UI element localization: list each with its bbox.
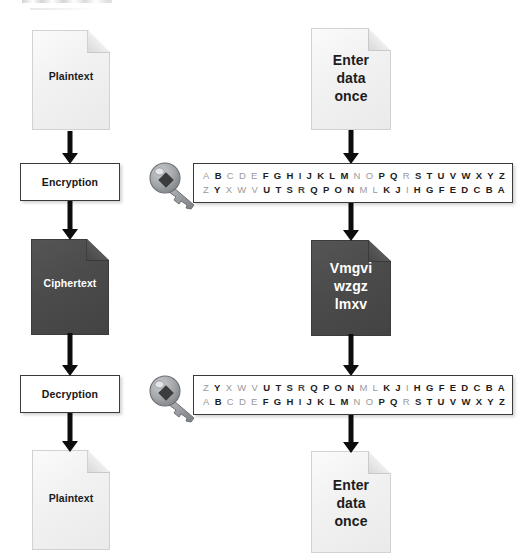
alphabet-letter: X (226, 382, 232, 394)
alphabet-letter: R (403, 396, 410, 408)
arrow-ciphertext-to-decryption (61, 333, 79, 376)
arrow-input-to-encryption-key (342, 130, 360, 164)
alphabet-letter: M (359, 382, 367, 394)
alphabet-letter: O (335, 382, 342, 394)
alphabet-letter: H (286, 170, 293, 182)
arrow-encryption-to-ciphertext (61, 201, 79, 240)
document-label: Plaintext (32, 70, 110, 83)
document-label: Plaintext (32, 492, 110, 505)
alphabet-letter: H (414, 184, 421, 196)
cipher-alphabet-row: ZYXWVUTSRQPONMLKJIHGFEDCBA (203, 184, 505, 196)
alphabet-letter: O (366, 396, 373, 408)
alphabet-letter: A (498, 184, 505, 196)
alphabet-letter: T (275, 184, 281, 196)
alphabet-letter: J (307, 170, 312, 182)
scan-artifact-secondary (30, 8, 98, 10)
alphabet-letter: K (317, 170, 324, 182)
alphabet-letter: G (426, 184, 433, 196)
alphabet-letter: D (461, 184, 468, 196)
alphabet-letter: D (239, 170, 246, 182)
alphabet-letter: U (438, 170, 445, 182)
document-label: Enter data once (311, 52, 391, 106)
alphabet-letter: D (461, 382, 468, 394)
alphabet-letter: E (450, 184, 456, 196)
alphabet-letter: J (395, 184, 400, 196)
alphabet-letter: T (275, 382, 281, 394)
cipher-document: Vmgvi wzgz lmxv (311, 240, 391, 336)
alphabet-letter: M (340, 170, 348, 182)
alphabet-letter: F (263, 170, 269, 182)
alphabet-letter: B (215, 170, 222, 182)
key-icon-glyph (146, 373, 212, 423)
alphabet-letter: X (226, 184, 232, 196)
arrow-decryption-to-plaintext (61, 413, 79, 452)
input-document-top: Enter data once (311, 28, 391, 130)
scan-artifact (22, 0, 112, 3)
alphabet-letter: E (251, 396, 257, 408)
alphabet-letter: U (263, 382, 270, 394)
alphabet-letter: X (476, 396, 482, 408)
alphabet-letter: C (474, 184, 481, 196)
alphabet-letter: I (406, 382, 409, 394)
alphabet-letter: T (427, 396, 433, 408)
alphabet-letter: S (286, 184, 292, 196)
alphabet-letter: Q (310, 382, 317, 394)
cipher-alphabet-row: ZYXWVUTSRQPONMLKJIHGFEDCBA (203, 382, 505, 394)
alphabet-letter: M (340, 396, 348, 408)
alphabet-letter: L (329, 170, 335, 182)
alphabet-letter: B (486, 184, 493, 196)
alphabet-letter: E (251, 170, 257, 182)
alphabet-letter: C (474, 382, 481, 394)
document-label: Vmgvi wzgz lmxv (311, 260, 391, 314)
alphabet-letter: R (403, 170, 410, 182)
key-icon (146, 160, 212, 210)
alphabet-letter: X (476, 170, 482, 182)
alphabet-letter: E (450, 382, 456, 394)
alphabet-letter: I (299, 170, 302, 182)
alphabet-letter: R (298, 382, 305, 394)
alphabet-letter: B (215, 396, 222, 408)
alphabet-letter: W (237, 382, 246, 394)
alphabet-letter: Z (499, 396, 505, 408)
alphabet-letter: Y (487, 170, 493, 182)
alphabet-letter: O (366, 170, 373, 182)
encryption-key-table: ABCDEFGHIJKLMNOPQRSTUVWXYZ ZYXWVUTSRQPON… (193, 163, 513, 203)
alphabet-letter: K (317, 396, 324, 408)
alphabet-letter: W (461, 170, 470, 182)
alphabet-letter: F (439, 184, 445, 196)
document-label: Enter data once (311, 477, 391, 531)
alphabet-letter: Y (487, 396, 493, 408)
decryption-process-label: Decryption (42, 388, 98, 400)
alphabet-letter: F (439, 382, 445, 394)
diagram-canvas: Plaintext Encryption Ciphertext Decrypti… (0, 0, 522, 560)
alphabet-letter: P (378, 396, 384, 408)
alphabet-letter: S (415, 396, 421, 408)
alphabet-letter: P (323, 184, 329, 196)
alphabet-letter: P (378, 170, 384, 182)
alphabet-letter: V (252, 382, 258, 394)
plain-alphabet-row: ABCDEFGHIJKLMNOPQRSTUVWXYZ (203, 170, 505, 182)
alphabet-letter: C (227, 170, 234, 182)
alphabet-letter: Q (310, 184, 317, 196)
plaintext-document-bottom: Plaintext (32, 450, 110, 550)
alphabet-letter: V (252, 184, 258, 196)
alphabet-letter: V (450, 170, 456, 182)
alphabet-letter: V (450, 396, 456, 408)
alphabet-letter: N (354, 396, 361, 408)
alphabet-letter: I (299, 396, 302, 408)
plaintext-document-top: Plaintext (32, 30, 110, 130)
alphabet-letter: Z (499, 170, 505, 182)
decryption-process-box: Decryption (20, 375, 120, 413)
alphabet-letter: N (347, 184, 354, 196)
alphabet-letter: W (461, 396, 470, 408)
arrow-decryption-key-to-output (342, 415, 360, 453)
alphabet-letter: C (227, 396, 234, 408)
arrow-encryption-key-to-cipher (342, 203, 360, 241)
arrow-plaintext-to-encryption (61, 131, 79, 164)
encryption-process-box: Encryption (20, 163, 120, 201)
alphabet-letter: D (239, 396, 246, 408)
alphabet-letter: U (263, 184, 270, 196)
alphabet-letter: S (415, 170, 421, 182)
alphabet-letter: J (395, 382, 400, 394)
encryption-process-label: Encryption (42, 176, 98, 188)
